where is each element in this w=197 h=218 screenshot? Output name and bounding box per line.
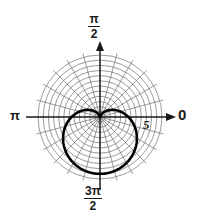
axis-label-pi: π [10, 109, 20, 122]
axis-label-pi-half: π 2 [88, 10, 100, 40]
axis-label-three-pi-half: 3π 2 [84, 182, 102, 212]
fraction-three-pi-half: 3π 2 [84, 185, 102, 212]
axis-label-zero: 0 [178, 107, 186, 122]
fraction-denominator: 2 [90, 28, 99, 40]
fraction-numerator: π [88, 13, 99, 25]
fraction-numerator: 3π [84, 185, 102, 197]
radial-tick-label-5: 5 [143, 118, 150, 131]
fraction-denominator: 2 [89, 200, 98, 212]
fraction-pi-half: π 2 [88, 13, 100, 40]
